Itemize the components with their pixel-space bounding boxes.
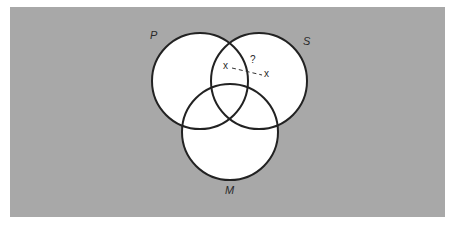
label-p: P <box>150 29 157 41</box>
question-mark: ? <box>250 54 256 65</box>
label-s: S <box>303 35 310 47</box>
x-mark-right: x <box>264 68 269 79</box>
x-mark-left: x <box>223 60 228 71</box>
label-m: M <box>225 184 234 196</box>
